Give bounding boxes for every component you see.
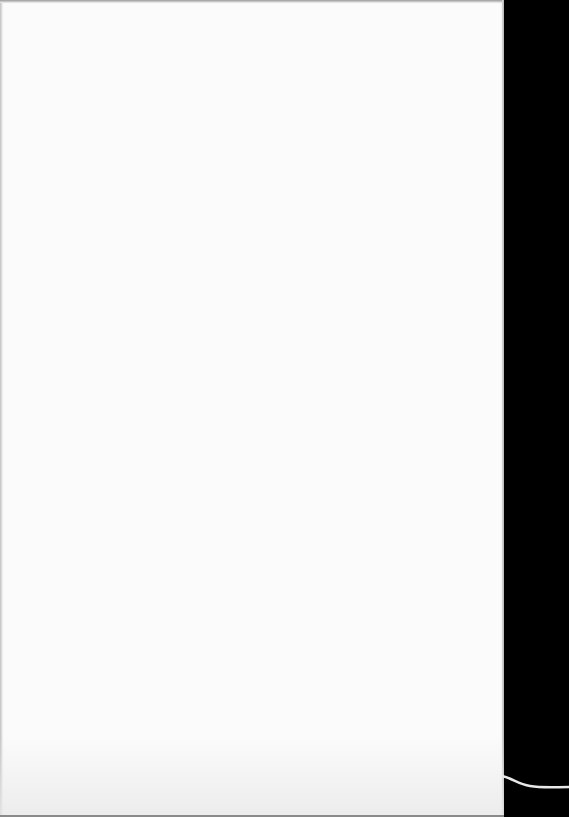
curled-edge-icon: [500, 770, 569, 790]
page-right-edge: [502, 0, 504, 817]
blank-page: [0, 0, 504, 817]
scan-scene: [0, 0, 569, 817]
page-top-edge: [0, 0, 504, 3]
page-bottom-shade: [0, 737, 504, 817]
